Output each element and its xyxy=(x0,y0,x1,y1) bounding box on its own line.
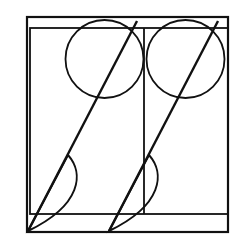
geometric-figure-canvas: geometric-line-drawing Black line drawin… xyxy=(0,0,242,243)
